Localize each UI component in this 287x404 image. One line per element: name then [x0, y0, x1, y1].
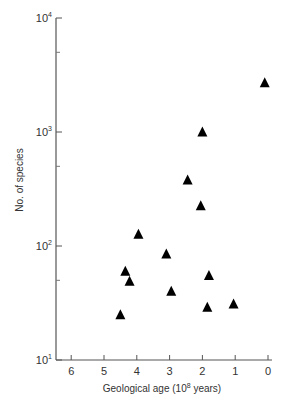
triangle-marker	[202, 302, 212, 312]
triangle-marker	[197, 127, 207, 137]
x-tick-label: 0	[265, 365, 271, 377]
y-tick-label: 104	[36, 11, 52, 24]
triangle-marker	[166, 286, 176, 296]
triangle-marker	[204, 270, 214, 280]
y-axis-title: No. of species	[14, 148, 25, 211]
triangle-marker	[229, 298, 239, 308]
x-axis-title: Geological age (108 years)	[103, 382, 221, 394]
y-tick-label: 103	[36, 125, 52, 138]
x-tick-label: 4	[134, 365, 140, 377]
triangle-marker	[120, 266, 130, 276]
triangle-marker	[161, 249, 171, 259]
x-tick-label: 1	[232, 365, 238, 377]
y-tick-label: 102	[36, 239, 52, 252]
x-tick-label: 3	[167, 365, 173, 377]
triangle-marker	[125, 276, 135, 286]
axes: 1011021031046543210	[36, 11, 272, 377]
triangle-marker	[115, 309, 125, 319]
data-points	[115, 77, 269, 319]
triangle-marker	[183, 174, 193, 184]
triangle-marker	[196, 200, 206, 210]
y-tick-label: 101	[36, 353, 52, 366]
x-tick-label: 6	[68, 365, 74, 377]
triangle-marker	[133, 229, 143, 239]
triangle-marker	[260, 77, 270, 87]
x-tick-label: 2	[199, 365, 205, 377]
x-tick-label: 5	[101, 365, 107, 377]
scatter-chart: 1011021031046543210 Geological age (108 …	[0, 0, 287, 404]
